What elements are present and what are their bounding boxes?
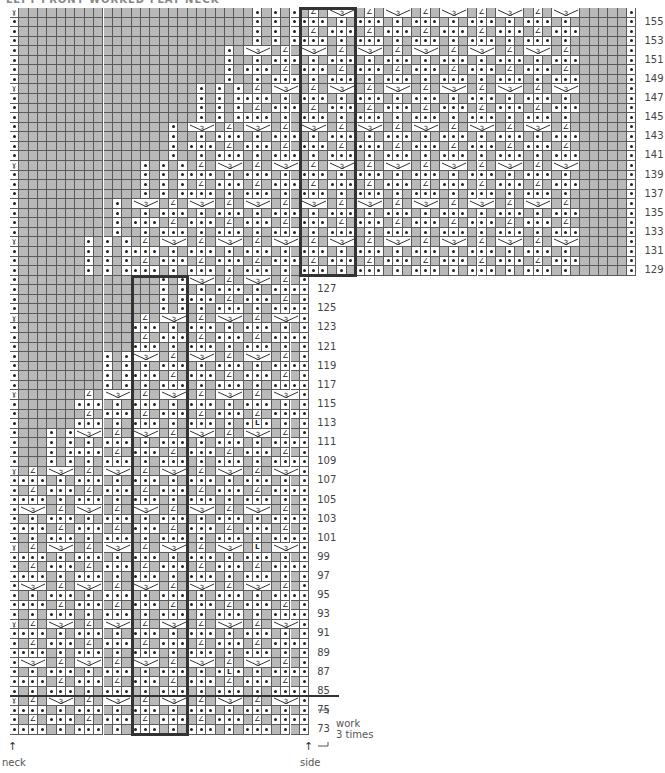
chart-cell xyxy=(75,381,84,391)
chart-cell xyxy=(113,715,122,725)
three-into-one-symbol: 3 xyxy=(496,8,524,18)
chart-cell xyxy=(468,56,477,66)
chart-cell xyxy=(104,591,113,601)
edge-stitch xyxy=(300,419,309,429)
chart-cell xyxy=(234,658,243,668)
chart-cell xyxy=(19,151,28,161)
chart-cell xyxy=(580,132,589,142)
chart-cell: ∠ xyxy=(393,218,402,228)
chart-cell xyxy=(113,8,122,18)
chart-cell xyxy=(29,352,38,362)
chart-cell xyxy=(272,209,281,219)
chart-cell xyxy=(141,448,150,458)
chart-cell xyxy=(113,553,122,563)
chart-cell xyxy=(169,476,178,486)
chart-cell xyxy=(188,620,197,630)
chart-cell xyxy=(197,591,206,601)
three-into-one-symbol: 3 xyxy=(524,123,552,133)
svg-text:3: 3 xyxy=(564,10,568,18)
edge-stitch xyxy=(300,285,309,295)
chart-cell xyxy=(234,352,243,362)
chart-cell xyxy=(272,371,281,381)
chart-cell xyxy=(262,448,271,458)
chart-cell xyxy=(85,515,94,525)
chart-cell xyxy=(608,18,617,28)
chart-cell xyxy=(552,65,561,75)
chart-cell xyxy=(66,94,75,104)
chart-cell xyxy=(291,601,300,611)
chart-cell xyxy=(94,304,103,314)
chart-cell xyxy=(300,237,309,247)
chart-cell xyxy=(571,199,580,209)
chart-cell xyxy=(291,352,300,362)
chart-cell xyxy=(29,362,38,372)
chart-cell xyxy=(412,161,421,171)
chart-cell xyxy=(618,104,627,114)
chart-cell xyxy=(590,65,599,75)
chart-cell xyxy=(216,582,225,592)
svg-text:3: 3 xyxy=(480,124,484,132)
three-into-one-symbol: 3 xyxy=(188,199,216,209)
chart-cell xyxy=(244,171,253,181)
chart-cell xyxy=(309,18,318,28)
chart-cell xyxy=(178,209,187,219)
chart-cell xyxy=(132,486,141,496)
chart-cell xyxy=(104,113,113,123)
chart-cell xyxy=(356,257,365,267)
slip-symbol: ɣ xyxy=(10,467,19,477)
chart-cell xyxy=(534,113,543,123)
chart-cell xyxy=(291,706,300,716)
chart-cell xyxy=(412,65,421,75)
chart-cell xyxy=(421,18,430,28)
chart-cell xyxy=(459,65,468,75)
chart-cell xyxy=(150,171,159,181)
chart-cell xyxy=(571,266,580,276)
chart-cell xyxy=(216,65,225,75)
chart-cell xyxy=(262,467,271,477)
chart-cell xyxy=(216,343,225,353)
chart-cell xyxy=(122,601,131,611)
chart-cell xyxy=(253,515,262,525)
chart-cell xyxy=(104,352,113,362)
chart-cell xyxy=(496,65,505,75)
chart-cell xyxy=(122,553,131,563)
chart-cell xyxy=(478,218,487,228)
chart-cell xyxy=(57,132,66,142)
chart-cell xyxy=(113,639,122,649)
chart-cell xyxy=(234,629,243,639)
chart-cell xyxy=(534,151,543,161)
svg-text:3: 3 xyxy=(508,239,512,247)
chart-cell xyxy=(132,381,141,391)
chart-cell: ∠ xyxy=(281,448,290,458)
chart-cell xyxy=(515,94,524,104)
chart-cell xyxy=(169,190,178,200)
chart-cell xyxy=(122,323,131,333)
chart-cell xyxy=(104,381,113,391)
chart-cell xyxy=(122,237,131,247)
chart-cell xyxy=(244,257,253,267)
chart-cell xyxy=(150,725,159,735)
chart-cell xyxy=(141,323,150,333)
chart-cell xyxy=(225,706,234,716)
chart-cell xyxy=(160,209,169,219)
chart-cell xyxy=(384,266,393,276)
chart-cell xyxy=(57,362,66,372)
chart-cell xyxy=(524,180,533,190)
chart-cell xyxy=(150,706,159,716)
chart-cell xyxy=(197,668,206,678)
chart-cell xyxy=(291,476,300,486)
chart-cell xyxy=(552,94,561,104)
chart-cell xyxy=(421,132,430,142)
chart-cell xyxy=(431,37,440,47)
chart-cell xyxy=(10,410,19,420)
chart-cell xyxy=(206,476,215,486)
chart-cell xyxy=(132,8,141,18)
chart-cell xyxy=(272,113,281,123)
chart-cell xyxy=(47,343,56,353)
chart-cell xyxy=(552,199,561,209)
edge-stitch xyxy=(300,715,309,725)
chart-cell xyxy=(66,199,75,209)
chart-cell xyxy=(421,209,430,219)
chart-cell xyxy=(188,543,197,553)
chart-cell xyxy=(599,56,608,66)
